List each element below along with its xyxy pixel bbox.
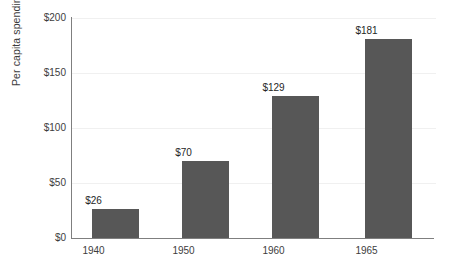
y-axis-tick-labels: $200 $150 $100 $50 $0: [0, 0, 66, 277]
x-tick-label-1960: 1960: [250, 245, 297, 257]
bar-value-label-1940: $26: [70, 195, 117, 206]
x-tick-label-1940: 1940: [70, 245, 117, 257]
y-tick-label-0: $0: [2, 233, 66, 243]
y-tick-label-150: $150: [2, 68, 66, 78]
x-tick-label-1965: 1965: [343, 245, 390, 257]
bar-value-label-1965: $181: [343, 25, 390, 36]
bar-1950[interactable]: [182, 161, 229, 238]
bar-value-label-1960: $129: [250, 82, 297, 93]
y-tick-label-50: $50: [2, 178, 66, 188]
bar-chart: Per capita spending $200 $150 $100 $50 $…: [0, 0, 458, 277]
x-axis-line: [72, 238, 434, 239]
x-tick-label-1950: 1950: [160, 245, 207, 257]
bar-1940[interactable]: [92, 209, 139, 238]
y-tick-label-200: $200: [2, 13, 66, 23]
gridline-200: [72, 18, 436, 19]
bar-value-label-1950: $70: [160, 147, 207, 158]
y-tick-label-100: $100: [2, 123, 66, 133]
bar-1965[interactable]: [365, 39, 412, 238]
bar-1960[interactable]: [272, 96, 319, 238]
plot-area: [72, 18, 436, 238]
